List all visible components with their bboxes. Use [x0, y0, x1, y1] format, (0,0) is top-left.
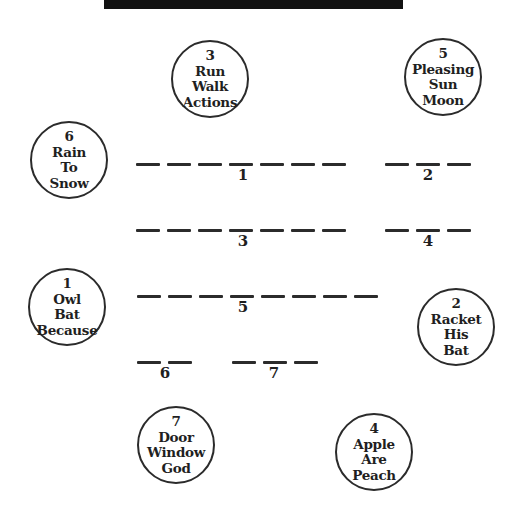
- clue-circle-2: 2 Racket His Bat: [417, 288, 495, 366]
- clue-word: Peach: [352, 468, 396, 484]
- answer-blank-label-6: 6: [153, 366, 177, 381]
- clue-circle-number: 7: [171, 414, 180, 430]
- clue-word: Bat: [54, 307, 80, 323]
- blank-dash: [198, 163, 222, 166]
- answer-blank-label-5: 5: [231, 300, 255, 315]
- answer-blank-5: [137, 295, 378, 298]
- clue-circle-7: 7 Door Window God: [137, 406, 215, 484]
- clue-circle-number: 6: [64, 129, 73, 145]
- clue-word: Because: [37, 323, 98, 339]
- blank-dash: [168, 295, 192, 298]
- puzzle-page: 3 Run Walk Actions 5 Pleasing Sun Moon 6…: [0, 0, 524, 513]
- clue-word: Walk: [192, 79, 228, 95]
- blank-dash: [447, 229, 471, 232]
- blank-dash: [167, 163, 191, 166]
- clue-word: Racket: [431, 312, 482, 328]
- clue-circle-4: 4 Apple Are Peach: [335, 413, 413, 491]
- blank-dash: [136, 163, 160, 166]
- blank-dash: [291, 229, 315, 232]
- clue-circle-number: 4: [369, 421, 378, 437]
- clue-word: Run: [195, 64, 225, 80]
- blank-dash: [136, 229, 160, 232]
- blank-dash: [168, 361, 192, 364]
- blank-dash: [260, 229, 284, 232]
- answer-blank-label-1: 1: [231, 168, 255, 183]
- answer-blank-label-7: 7: [262, 366, 286, 381]
- clue-circle-number: 3: [205, 48, 214, 64]
- blank-dash: [198, 229, 222, 232]
- blank-dash: [291, 163, 315, 166]
- clue-word: Owl: [53, 292, 81, 308]
- blank-dash: [232, 361, 256, 364]
- clue-word: God: [161, 461, 190, 477]
- clue-circle-3: 3 Run Walk Actions: [171, 40, 249, 118]
- clue-word: His: [444, 327, 469, 343]
- clue-circle-1: 1 Owl Bat Because: [28, 268, 106, 346]
- blank-dash: [292, 295, 316, 298]
- blank-dash: [322, 229, 346, 232]
- blank-dash: [260, 163, 284, 166]
- clue-word: Actions: [183, 95, 237, 111]
- clue-circle-6: 6 Rain To Snow: [30, 121, 108, 199]
- clue-circle-number: 2: [451, 296, 460, 312]
- clue-word: Window: [147, 445, 205, 461]
- blank-dash: [354, 295, 378, 298]
- clue-word: Bat: [443, 343, 469, 359]
- clue-word: To: [61, 160, 78, 176]
- redacted-title-bar: [104, 0, 403, 9]
- blank-dash: [294, 361, 318, 364]
- blank-dash: [323, 295, 347, 298]
- clue-word: Apple: [353, 437, 395, 453]
- blank-dash: [385, 229, 409, 232]
- clue-word: Pleasing: [412, 62, 474, 78]
- clue-word: Moon: [422, 93, 464, 109]
- answer-blank-label-2: 2: [416, 168, 440, 183]
- answer-blank-label-3: 3: [231, 234, 255, 249]
- blank-dash: [447, 163, 471, 166]
- answer-blank-label-4: 4: [416, 234, 440, 249]
- blank-dash: [199, 295, 223, 298]
- clue-word: Sun: [429, 77, 457, 93]
- blank-dash: [167, 229, 191, 232]
- clue-word: Rain: [52, 145, 86, 161]
- blank-dash: [322, 163, 346, 166]
- clue-circle-number: 5: [438, 46, 447, 62]
- clue-word: Door: [158, 430, 194, 446]
- clue-circle-number: 1: [62, 276, 71, 292]
- blank-dash: [261, 295, 285, 298]
- blank-dash: [385, 163, 409, 166]
- clue-word: Are: [361, 452, 386, 468]
- blank-dash: [137, 361, 161, 364]
- blank-dash: [137, 295, 161, 298]
- clue-circle-5: 5 Pleasing Sun Moon: [404, 38, 482, 116]
- clue-word: Snow: [50, 176, 89, 192]
